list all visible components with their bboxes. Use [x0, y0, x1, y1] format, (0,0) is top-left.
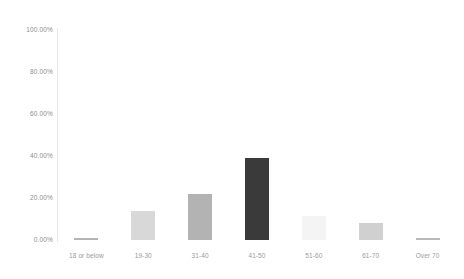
bar[interactable] — [302, 216, 326, 240]
bar[interactable] — [131, 211, 155, 240]
x-axis-tick-label: 61-70 — [342, 251, 399, 260]
bar[interactable] — [245, 158, 269, 240]
x-axis: 18 or below19-3031-4041-5051-6061-70Over… — [58, 243, 456, 263]
plot-area — [58, 30, 456, 240]
x-axis-tick-label: 18 or below — [58, 251, 115, 260]
bar-slot — [302, 30, 326, 240]
x-axis-tick-label: 19-30 — [115, 251, 172, 260]
bar[interactable] — [359, 223, 383, 240]
bar[interactable] — [74, 238, 98, 240]
bar-chart: 100.00%80.00%60.00%40.00%20.00%0.00% 18 … — [0, 0, 464, 279]
y-axis-tick-label: 20.00% — [5, 194, 53, 202]
bar-slot — [188, 30, 212, 240]
y-axis-tick-label: 40.00% — [5, 152, 53, 160]
bar[interactable] — [416, 238, 440, 240]
y-axis: 100.00%80.00%60.00%40.00%20.00%0.00% — [0, 30, 53, 240]
y-axis-tick-label: 100.00% — [5, 26, 53, 34]
bar[interactable] — [188, 194, 212, 240]
x-axis-tick-label: 41-50 — [229, 251, 286, 260]
y-axis-tick-label: 60.00% — [5, 110, 53, 118]
bar-slot — [245, 30, 269, 240]
bar-slot — [74, 30, 98, 240]
bar-slot — [416, 30, 440, 240]
x-axis-tick-label: Over 70 — [399, 251, 456, 260]
y-axis-tick-label: 0.00% — [5, 236, 53, 244]
y-axis-tick-label: 80.00% — [5, 68, 53, 76]
x-axis-tick-label: 31-40 — [172, 251, 229, 260]
x-axis-tick-label: 51-60 — [285, 251, 342, 260]
bar-slot — [131, 30, 155, 240]
bar-slot — [359, 30, 383, 240]
